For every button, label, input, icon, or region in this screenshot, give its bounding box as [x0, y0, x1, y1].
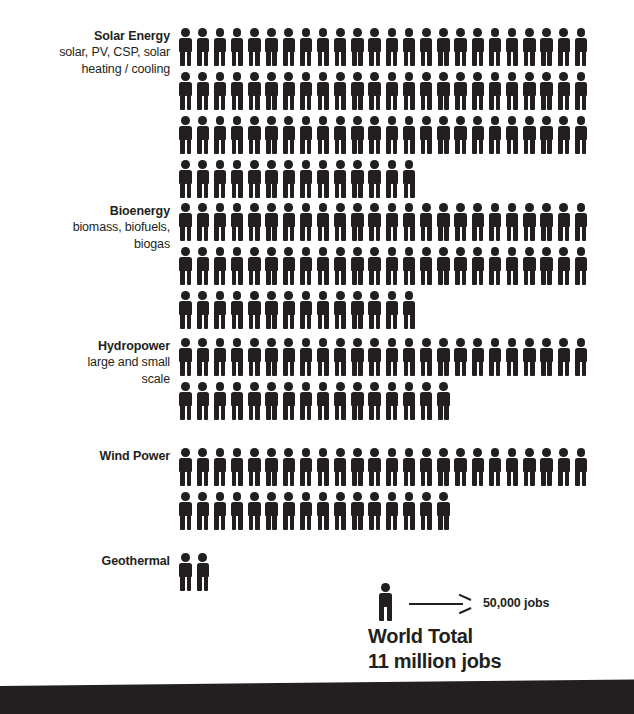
category-title: Geothermal: [10, 553, 170, 569]
person-icon: [400, 492, 417, 532]
person-icon: [383, 116, 400, 156]
category-title: Hydropower: [10, 338, 170, 354]
person-icon: [211, 338, 228, 378]
icon-row: [177, 338, 627, 382]
person-icon: [521, 338, 538, 378]
person-icon: [211, 28, 228, 68]
person-icon: [469, 247, 486, 287]
person-icon: [280, 382, 297, 422]
person-icon: [229, 382, 246, 422]
person-icon: [297, 338, 314, 378]
person-icon: [263, 338, 280, 378]
icon-row: [177, 382, 627, 426]
person-icon: [469, 203, 486, 243]
person-icon: [332, 338, 349, 378]
person-icon: [572, 72, 589, 112]
person-icon: [229, 448, 246, 488]
person-icon: [555, 203, 572, 243]
person-icon: [521, 72, 538, 112]
person-icon: [332, 160, 349, 200]
person-icon: [332, 203, 349, 243]
person-icon: [400, 338, 417, 378]
person-icon: [280, 28, 297, 68]
person-icon: [211, 203, 228, 243]
person-icon: [383, 203, 400, 243]
person-icon: [229, 203, 246, 243]
person-icon: [521, 247, 538, 287]
person-icon: [366, 291, 383, 331]
person-icon: [555, 338, 572, 378]
person-icon: [469, 448, 486, 488]
person-icon: [349, 448, 366, 488]
person-icon: [486, 72, 503, 112]
person-icon: [349, 203, 366, 243]
person-icon: [194, 247, 211, 287]
person-icon: [263, 203, 280, 243]
icon-row: [177, 160, 627, 204]
person-icon: [418, 382, 435, 422]
person-icon: [486, 448, 503, 488]
person-icon: [435, 382, 452, 422]
person-icon: [315, 448, 332, 488]
person-icon: [349, 160, 366, 200]
world-total-title: World Total: [368, 624, 598, 649]
person-icon: [349, 116, 366, 156]
person-icon: [263, 291, 280, 331]
person-icon: [435, 247, 452, 287]
person-icon: [211, 291, 228, 331]
person-icon: [435, 116, 452, 156]
person-icon: [280, 116, 297, 156]
icon-row: [177, 116, 627, 160]
icon-row: [177, 291, 627, 335]
person-icon: [383, 448, 400, 488]
person-icon: [400, 203, 417, 243]
person-icon: [211, 448, 228, 488]
person-icon: [538, 247, 555, 287]
icon-row: [177, 247, 627, 291]
person-icon: [400, 28, 417, 68]
person-icon: [246, 448, 263, 488]
person-icon: [280, 492, 297, 532]
person-icon: [521, 28, 538, 68]
icon-grid-solar-energy: [177, 28, 627, 204]
person-icon: [194, 448, 211, 488]
person-icon: [504, 203, 521, 243]
person-icon: [315, 247, 332, 287]
person-icon: [280, 160, 297, 200]
person-icon: [211, 247, 228, 287]
person-icon: [229, 160, 246, 200]
person-icon: [297, 160, 314, 200]
person-icon: [194, 203, 211, 243]
person-icon: [538, 72, 555, 112]
person-icon: [177, 338, 194, 378]
world-total: World Total 11 million jobs: [368, 624, 598, 674]
person-icon: [263, 116, 280, 156]
person-icon: [211, 382, 228, 422]
person-icon: [263, 492, 280, 532]
person-icon: [315, 160, 332, 200]
category-title: Bioenergy: [10, 203, 170, 219]
person-icon: [315, 338, 332, 378]
person-icon: [229, 338, 246, 378]
icon-row: [177, 203, 627, 247]
person-icon: [246, 291, 263, 331]
person-icon: [366, 72, 383, 112]
person-icon: [452, 116, 469, 156]
person-icon: [435, 72, 452, 112]
person-icon: [366, 203, 383, 243]
person-icon: [504, 247, 521, 287]
person-icon: [366, 448, 383, 488]
person-icon: [418, 116, 435, 156]
legend: 50,000 jobs: [376, 582, 549, 624]
person-icon: [486, 338, 503, 378]
person-icon: [418, 492, 435, 532]
person-icon: [194, 291, 211, 331]
person-icon: [332, 492, 349, 532]
person-icon: [376, 583, 395, 623]
person-icon: [246, 72, 263, 112]
person-icon: [366, 160, 383, 200]
person-icon: [332, 291, 349, 331]
person-icon: [332, 247, 349, 287]
person-icon: [486, 28, 503, 68]
person-icon: [452, 448, 469, 488]
